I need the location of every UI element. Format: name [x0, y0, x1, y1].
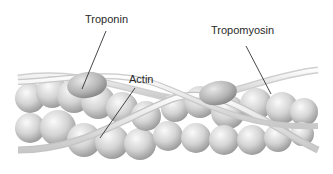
filament-diagram: Troponin Tropomyosin Actin [0, 0, 333, 174]
actin-label: Actin [129, 73, 153, 85]
troponin-label: Troponin [85, 13, 128, 25]
tropomyosin-label: Tropomyosin [211, 24, 274, 36]
filament-illustration [0, 0, 333, 174]
